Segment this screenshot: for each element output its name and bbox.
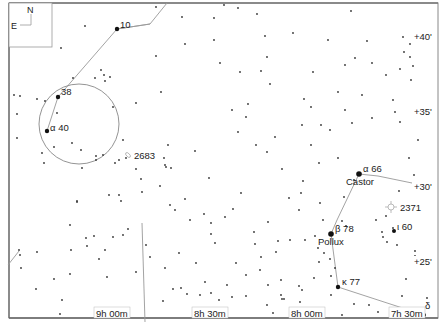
star	[413, 174, 415, 176]
named-star	[115, 27, 119, 31]
star	[240, 192, 242, 194]
star	[178, 252, 180, 254]
star	[18, 249, 20, 251]
star	[334, 267, 336, 269]
star	[277, 240, 279, 242]
star	[232, 208, 234, 210]
star	[162, 300, 164, 302]
star	[350, 10, 352, 12]
star	[410, 79, 412, 81]
star	[256, 13, 258, 15]
star	[155, 55, 157, 57]
named-star	[392, 229, 396, 233]
star	[145, 244, 147, 246]
star	[274, 136, 276, 138]
star	[281, 298, 283, 300]
star	[120, 200, 122, 202]
star	[135, 271, 137, 273]
star	[112, 236, 114, 238]
star	[165, 166, 167, 168]
star-label: δ	[425, 300, 430, 311]
star	[405, 278, 407, 280]
star	[195, 262, 197, 264]
star	[247, 103, 249, 105]
dec-label: +40'	[414, 31, 432, 42]
star	[103, 74, 105, 76]
chart-frame	[9, 3, 438, 318]
star	[72, 77, 74, 79]
star	[159, 185, 161, 187]
star	[266, 304, 268, 306]
star	[255, 144, 257, 146]
star	[100, 69, 102, 71]
named-star	[336, 285, 340, 289]
star-label: Castor	[346, 176, 374, 187]
star	[204, 281, 206, 283]
star	[344, 109, 346, 111]
dec-label: +35'	[414, 106, 432, 117]
star	[320, 124, 322, 126]
star	[210, 222, 212, 224]
star	[199, 294, 201, 296]
star	[155, 6, 157, 8]
star	[98, 258, 100, 260]
star	[337, 157, 339, 159]
star	[36, 251, 38, 253]
star	[231, 109, 233, 111]
star	[122, 139, 124, 141]
star	[245, 116, 247, 118]
star	[184, 198, 186, 200]
named-star	[56, 95, 60, 99]
star	[272, 312, 274, 314]
star-label: β 78	[335, 223, 354, 234]
dec-label: +30'	[414, 181, 432, 192]
star	[85, 237, 87, 239]
star	[337, 91, 339, 93]
star	[102, 154, 104, 156]
star	[323, 252, 325, 254]
star	[122, 234, 124, 236]
star	[109, 76, 111, 78]
star	[84, 25, 86, 27]
star	[269, 83, 271, 85]
star	[371, 62, 373, 64]
star	[409, 56, 411, 58]
star-label: 38	[61, 86, 72, 97]
star	[184, 43, 186, 45]
star	[218, 299, 220, 301]
star	[408, 157, 410, 159]
star-chart: N E 1038α 40α 66Castorβ 78Polluxι 60κ 77…	[0, 0, 440, 322]
star	[310, 144, 312, 146]
star	[361, 94, 363, 96]
star	[127, 228, 129, 230]
star	[164, 267, 166, 269]
star	[283, 298, 285, 300]
star	[35, 288, 37, 290]
star	[160, 91, 162, 93]
star	[412, 65, 414, 67]
star	[329, 129, 331, 131]
star	[341, 314, 343, 316]
star	[260, 256, 262, 258]
star	[149, 256, 151, 258]
star-label: κ 77	[342, 276, 360, 287]
compass: N E	[9, 3, 52, 47]
star	[381, 231, 383, 233]
star	[208, 177, 210, 179]
star	[327, 39, 329, 41]
star	[318, 162, 320, 164]
star	[71, 142, 73, 144]
star	[267, 284, 269, 286]
star	[53, 278, 55, 280]
star-label: 10	[120, 19, 131, 30]
star	[396, 244, 398, 246]
star	[95, 155, 97, 157]
star	[301, 124, 303, 126]
star	[125, 157, 127, 159]
star	[36, 98, 38, 100]
star	[280, 294, 282, 296]
star	[69, 224, 71, 226]
star	[186, 293, 188, 295]
star	[108, 194, 110, 196]
star	[214, 242, 216, 244]
